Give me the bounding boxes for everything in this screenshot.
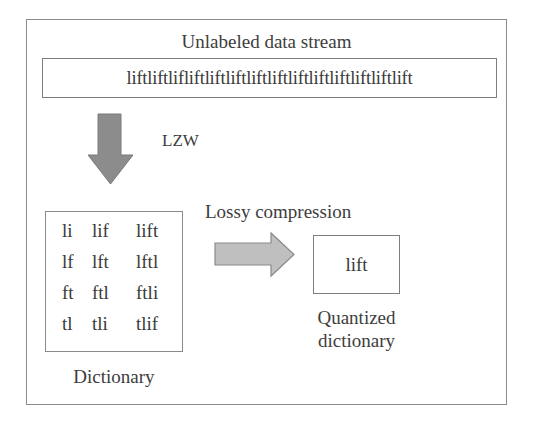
quantized-dictionary-caption: Quantized dictionary [300, 306, 413, 352]
quantized-entry: lift [345, 254, 367, 276]
dictionary-entry: lift [136, 220, 180, 251]
dictionary-entry: lftl [136, 251, 180, 282]
dictionary-entry: tlif [136, 313, 180, 344]
dictionary-entry: ft [62, 282, 92, 313]
quantized-caption-line2: dictionary [300, 329, 413, 352]
dictionary-caption: Dictionary [45, 366, 183, 388]
dictionary-entry: li [62, 220, 92, 251]
dictionary-box: li lif lift lf lft lftl ft ftl ftli tl t… [45, 211, 183, 352]
dictionary-entry: ftli [136, 282, 180, 313]
dictionary-entry: tli [92, 313, 136, 344]
quantized-dictionary-box: lift [313, 235, 400, 294]
dictionary-entry: tl [62, 313, 92, 344]
quantized-caption-line1: Quantized [300, 306, 413, 329]
dictionary-entry: lf [62, 251, 92, 282]
dictionary-entry: ftl [92, 282, 136, 313]
dictionary-grid: li lif lift lf lft lftl ft ftl ftli tl t… [62, 220, 180, 344]
dictionary-entry: lft [92, 251, 136, 282]
dictionary-entry: lif [92, 220, 136, 251]
